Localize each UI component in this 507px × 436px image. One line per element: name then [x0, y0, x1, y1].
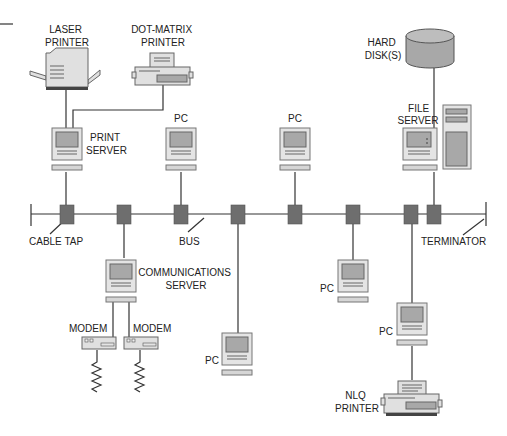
dot-matrix-printer-label: DOT-MATRIX PRINTER: [131, 24, 195, 48]
pc-bottom-2-computer-icon: [338, 260, 368, 302]
cable-tap-2: [117, 205, 131, 224]
cable-tap-3: [174, 205, 188, 224]
pc-top-2-computer-icon: [280, 128, 310, 170]
communications-server-computer-icon: [106, 260, 136, 302]
terminator-label: TERMINATOR: [421, 236, 486, 247]
modem-2-label: MODEM: [133, 323, 171, 334]
laser-printer-icon: [30, 48, 100, 90]
cable-tap-7: [404, 205, 418, 224]
pc-top-2-label: PC: [288, 113, 302, 124]
nlq-printer-label: NLQ PRINTER: [335, 390, 379, 414]
modem-1-icon: [82, 337, 116, 349]
cable-tap-1: [60, 205, 74, 224]
pc-bottom-3-computer-icon: [397, 303, 427, 345]
laser-printer-label: LASER PRINTER: [45, 24, 89, 48]
communications-server-label: COMMUNICATIONS SERVER: [138, 267, 233, 291]
modem-2-icon: [124, 337, 158, 349]
pc-bottom-3-label: PC: [379, 326, 393, 337]
dot-matrix-printer-icon: [132, 53, 193, 85]
nlq-printer-icon: [381, 381, 442, 416]
pc-top-1-computer-icon: [166, 128, 196, 170]
pc-top-1-label: PC: [174, 113, 188, 124]
file-server-tower-icon: [443, 105, 471, 169]
hard-disks-label: HARD DISK(S): [365, 37, 402, 61]
bus-label: BUS: [179, 236, 200, 247]
cable-tap-6: [346, 205, 360, 224]
cable-tap-8: [427, 205, 441, 224]
pc-bottom-1-label: PC: [205, 355, 219, 366]
cable-tap-4: [231, 205, 245, 224]
print-server-computer-icon: [52, 128, 82, 170]
bus-network-diagram: LASER PRINTER DOT-MATRIX PRINTER PRINT S…: [0, 0, 507, 436]
pc-bottom-1-computer-icon: [222, 333, 252, 375]
file-server-label: FILE SERVER: [398, 103, 439, 126]
cable-tap-5: [288, 205, 302, 224]
file-server-computer-icon: [403, 128, 437, 170]
cable-tap-label: CABLE TAP: [29, 236, 83, 247]
hard-disk-icon: [406, 29, 454, 68]
print-server-label: PRINT SERVER: [86, 132, 127, 156]
modem-1-label: MODEM: [69, 323, 107, 334]
pc-bottom-2-label: PC: [320, 283, 334, 294]
